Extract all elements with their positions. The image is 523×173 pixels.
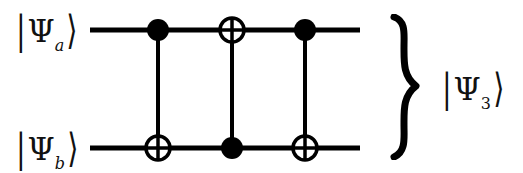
- psi-subscript: b: [55, 156, 65, 172]
- ket-angle-right: ⟩: [66, 10, 77, 50]
- ket-bar-left: |: [442, 68, 452, 108]
- ket-bar-left: |: [16, 10, 26, 50]
- cnot-2-xor-target: [220, 18, 244, 42]
- curly-brace-icon: [386, 14, 426, 160]
- psi-glyph: Ψ: [453, 74, 480, 105]
- cnot-1-xor-target: [146, 136, 170, 160]
- cnot-2-control-dot: [221, 137, 243, 159]
- psi-subscript: 3: [481, 96, 491, 112]
- input-label-psi-b: |Ψb⟩: [14, 128, 81, 172]
- ket-angle-right: ⟩: [493, 68, 504, 108]
- ket-angle-right: ⟩: [67, 128, 78, 168]
- psi-subscript: a: [55, 38, 65, 54]
- cnot-1-control-dot: [147, 19, 169, 41]
- cnot-3-control-dot: [294, 19, 316, 41]
- psi-glyph: Ψ: [27, 16, 54, 47]
- output-brace: [386, 14, 426, 160]
- input-label-psi-a: |Ψa⟩: [14, 10, 80, 54]
- output-label-psi-3: |Ψ3⟩: [440, 68, 506, 112]
- ket-bar-left: |: [16, 128, 26, 168]
- cnot-3-xor-target: [293, 136, 317, 160]
- quantum-circuit-figure: |Ψa⟩ |Ψb⟩ |Ψ3⟩: [0, 0, 523, 173]
- psi-glyph: Ψ: [27, 134, 54, 165]
